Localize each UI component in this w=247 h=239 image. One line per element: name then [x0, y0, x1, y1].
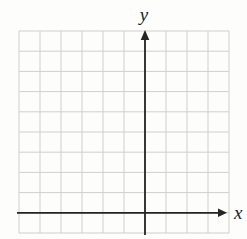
x-axis-arrow-icon	[218, 209, 227, 218]
coordinate-grid-figure: x y	[0, 0, 247, 239]
grid-lines	[19, 31, 229, 233]
y-axis-label: y	[138, 4, 149, 25]
x-axis-label: x	[233, 202, 243, 223]
grid-canvas: x y	[0, 0, 247, 239]
